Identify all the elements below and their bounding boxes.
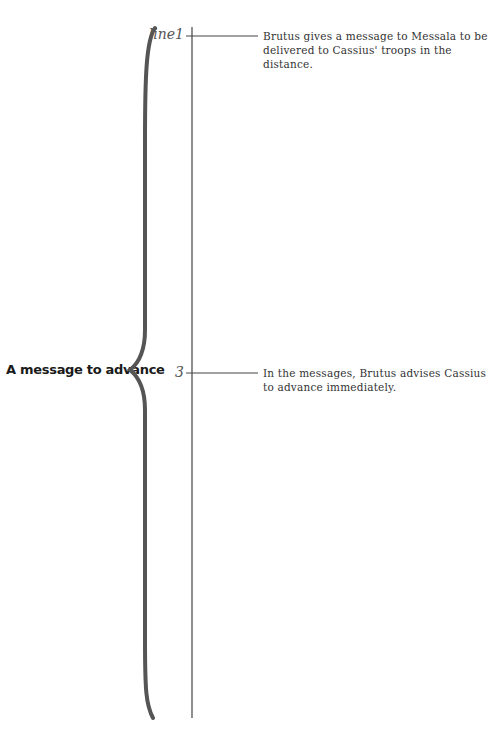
marker-note-3: In the messages, Brutus advises Cassius …: [263, 366, 493, 394]
marker-label-3: 3: [134, 364, 184, 380]
marker-note-line1: Brutus gives a message to Messala to be …: [263, 29, 493, 71]
marker-label-line1: line1: [134, 26, 184, 42]
